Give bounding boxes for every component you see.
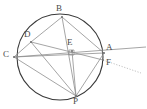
point-dot-E — [71, 50, 73, 52]
point-label-A: A — [106, 43, 113, 52]
chord-B-P — [62, 17, 76, 96]
point-label-D: D — [24, 30, 31, 39]
point-dot-F — [102, 59, 104, 61]
geometry-canvas — [0, 0, 147, 109]
point-label-E: E — [67, 38, 73, 47]
point-label-B: B — [56, 4, 62, 13]
ray-solid-right — [14, 47, 146, 57]
geometry-figure: B D C E A F P — [0, 0, 147, 109]
point-dot-D — [30, 41, 32, 43]
point-label-C: C — [3, 50, 9, 59]
point-dot-B — [61, 16, 63, 18]
chord-C-P — [14, 57, 76, 96]
point-label-F: F — [106, 58, 111, 67]
chord-C-D — [14, 42, 31, 57]
point-dot-A — [103, 52, 105, 54]
point-label-P: P — [73, 97, 78, 106]
point-dot-C — [13, 56, 15, 58]
chord-B-D — [31, 17, 62, 42]
chord-B-A — [62, 17, 104, 53]
segment-E-P — [72, 51, 76, 96]
